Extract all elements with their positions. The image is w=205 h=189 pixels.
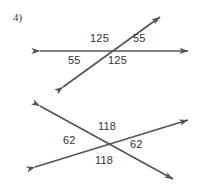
line-falling-right [40,106,173,179]
worksheet-problem-page: 4) 125 55 55 125 118 62 62 118 [0,0,205,189]
angle-label-left: 62 [63,135,76,146]
angle-label-bottom-right: 125 [108,55,127,66]
angle-label-bottom: 118 [95,155,113,166]
bottom-figure-lines [35,106,188,179]
top-figure-lines [40,17,188,87]
angle-label-right: 62 [130,139,143,150]
diagonal-line [63,17,160,87]
angle-label-bottom-left: 55 [68,55,81,66]
angle-label-top-right: 55 [133,33,146,44]
angle-label-top: 118 [98,121,116,132]
angle-label-top-left: 125 [90,33,109,44]
